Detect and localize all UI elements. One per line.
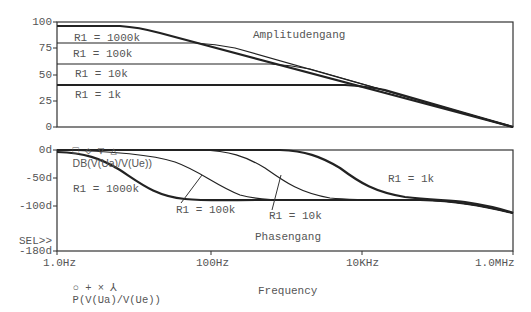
xtick-100hz: 100Hz [196, 257, 229, 269]
phase-ytick-minus100: -100d [0, 200, 52, 212]
amplitude-title: Amplitudengang [253, 29, 345, 41]
amp-ytick-50: 50 [0, 69, 52, 81]
xtick-1hz: 1.0Hz [43, 257, 76, 269]
phase-series-label-10k: R1 = 10k [269, 210, 322, 222]
amplitude-legend[interactable]: □ ◇ ▽ △ DB(V(Ua)/V(Ue)) [60, 133, 152, 170]
amp-ytick-0: 0 [0, 121, 52, 133]
sel-marker[interactable]: SEL>> [0, 235, 52, 247]
phase-series-label-1k: R1 = 1k [388, 173, 434, 185]
x-axis-title: Frequency [258, 285, 317, 297]
phase-ytick-minus50: -50d [0, 172, 52, 184]
amp-legend-expression: DB(V(Ua)/V(Ue)) [73, 157, 152, 169]
amp-ytick-25: 25 [0, 95, 52, 107]
phase-legend-expression: P(V(Ua)/V(Ue)) [73, 294, 161, 306]
amp-series-label-1000k: R1 = 1000k [74, 32, 140, 44]
amp-ytick-100: 100 [0, 16, 52, 28]
amp-series-label-1k: R1 = 1k [75, 89, 121, 101]
phase-legend-markers-icon: ○ + × ⅄ [73, 282, 118, 294]
x-ticks [57, 251, 513, 255]
phase-series-label-100k: R1 = 100k [176, 204, 235, 216]
amp-series-label-100k: R1 = 100k [73, 48, 132, 60]
xtick-1mhz: 1.0MHz [475, 257, 515, 269]
phase-title: Phasengang [255, 231, 321, 243]
amp-trace-1k [57, 85, 513, 127]
phase-legend[interactable]: ○ + × ⅄ P(V(Ua)/V(Ue)) [60, 270, 161, 306]
amp-ytick-75: 75 [0, 42, 52, 54]
amp-series-label-10k: R1 = 10k [75, 68, 128, 80]
phase-ytick-0: 0d [0, 144, 52, 156]
phase-series-label-1000k: R1 = 1000k [73, 183, 139, 195]
amp-legend-markers-icon: □ ◇ ▽ △ [73, 145, 117, 157]
xtick-10khz: 10KHz [346, 257, 379, 269]
